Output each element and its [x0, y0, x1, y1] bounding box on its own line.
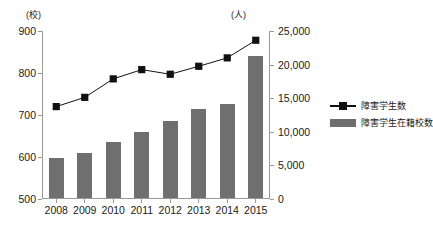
line-marker-2009: [81, 94, 88, 101]
left-tick-label: 800: [18, 68, 36, 79]
left-tick-label: 600: [18, 152, 36, 163]
right-tick: [270, 199, 274, 200]
x-tick-label-2012: 2012: [159, 205, 182, 216]
x-tick-label-2008: 2008: [45, 205, 68, 216]
x-tick: [113, 199, 114, 203]
x-tick: [255, 199, 256, 203]
right-axis-unit-label: (人): [231, 8, 246, 21]
right-tick-label: 20,000: [278, 60, 310, 71]
line-marker-2012: [167, 71, 174, 78]
line-marker-2013: [195, 63, 202, 70]
x-tick-label-2011: 2011: [130, 205, 153, 216]
x-tick-label-2009: 2009: [73, 205, 96, 216]
legend-item-line: 障害学生数: [330, 99, 416, 113]
right-tick-label: 0: [278, 194, 284, 205]
right-tick-label: 25,000: [278, 26, 310, 37]
line-series: [42, 31, 270, 199]
legend-item-bar: 障害学生在籍校数: [330, 116, 416, 130]
right-tick: [270, 132, 274, 133]
left-tick-label: 700: [18, 110, 36, 121]
bar-swatch-key-icon: [330, 117, 356, 129]
left-tick-label: 900: [18, 26, 36, 37]
legend-label-bar: 障害学生在籍校数: [361, 119, 433, 128]
line-marker-2014: [224, 54, 231, 61]
chart-legend: 障害学生数 障害学生在籍校数: [330, 99, 416, 133]
plot-area: 500600700800900 05,00010,00015,00020,000…: [42, 31, 270, 199]
line-marker-key-icon: [330, 100, 356, 112]
line-marker-2015: [252, 37, 259, 44]
x-tick: [170, 199, 171, 203]
left-tick: [38, 199, 42, 200]
x-tick: [227, 199, 228, 203]
right-tick-label: 15,000: [278, 93, 310, 104]
x-tick-label-2013: 2013: [187, 205, 210, 216]
x-tick-label-2014: 2014: [216, 205, 239, 216]
x-tick: [198, 199, 199, 203]
x-tick: [141, 199, 142, 203]
x-tick: [84, 199, 85, 203]
right-tick-label: 10,000: [278, 127, 310, 138]
right-tick: [270, 165, 274, 166]
x-tick: [56, 199, 57, 203]
right-tick: [270, 65, 274, 66]
legend-label-line: 障害学生数: [361, 102, 406, 111]
right-tick: [270, 31, 274, 32]
x-tick-label-2015: 2015: [244, 205, 267, 216]
line-marker-2010: [110, 75, 117, 82]
left-axis-unit-label: (校): [26, 8, 41, 21]
x-tick-label-2010: 2010: [102, 205, 125, 216]
line-marker-2008: [53, 103, 60, 110]
right-tick: [270, 98, 274, 99]
left-tick-label: 500: [18, 194, 36, 205]
line-marker-2011: [138, 66, 145, 73]
right-tick-label: 5,000: [278, 160, 304, 171]
